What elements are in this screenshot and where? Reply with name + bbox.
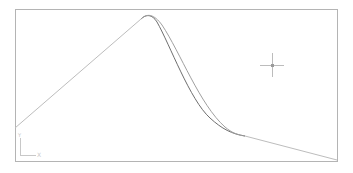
spline-curve-outer[interactable] xyxy=(141,15,245,136)
polyline-tail-segment[interactable] xyxy=(245,136,337,160)
drawing-canvas[interactable] xyxy=(0,0,353,173)
ucs-y-label: Y xyxy=(18,132,21,138)
crosshair-cursor-icon xyxy=(260,53,284,77)
spline-curve-inner[interactable] xyxy=(141,16,245,136)
polyline-rising-segment[interactable] xyxy=(15,19,141,128)
cad-drawing-viewport[interactable]: X Y xyxy=(0,0,353,173)
ucs-x-label: X xyxy=(37,152,41,158)
ucs-axis-icon xyxy=(20,138,36,156)
